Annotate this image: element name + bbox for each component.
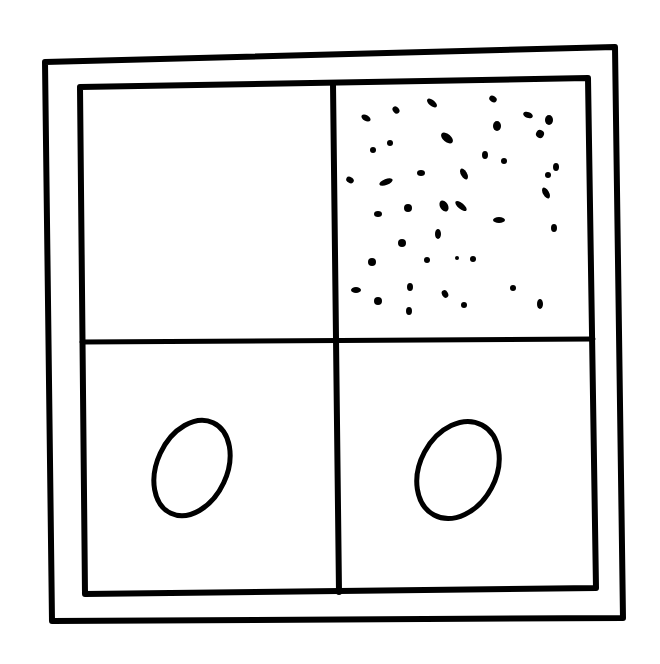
speckle-dot (351, 287, 361, 293)
speckle-dot (417, 170, 425, 176)
speckle-dot (553, 163, 559, 171)
speckle-dot (435, 229, 441, 239)
grid-diagram (0, 0, 660, 664)
speckle-dot (407, 283, 413, 291)
speckle-dot (368, 258, 376, 266)
speckle-dot (370, 147, 376, 153)
speckle-dot (470, 256, 476, 262)
speckle-dot (493, 217, 505, 223)
speckle-dot (501, 158, 507, 164)
speckle-dot (510, 285, 516, 291)
background (0, 0, 660, 664)
speckle-dot (461, 302, 467, 308)
horizontal-divider (82, 339, 593, 342)
speckle-dot (482, 151, 488, 159)
speckle-dot (374, 297, 382, 305)
speckle-dot (545, 172, 551, 178)
diagram-canvas (0, 0, 660, 664)
speckle-dot (406, 307, 412, 315)
speckle-dot (545, 115, 553, 125)
speckle-dot (493, 121, 501, 131)
speckle-dot (404, 204, 412, 212)
speckle-dot (455, 256, 459, 260)
speckle-dot (374, 211, 382, 217)
speckle-dot (398, 239, 406, 247)
speckle-dot (387, 140, 393, 146)
speckle-dot (424, 257, 430, 263)
speckle-dot (551, 224, 557, 232)
speckle-dot (537, 299, 543, 309)
